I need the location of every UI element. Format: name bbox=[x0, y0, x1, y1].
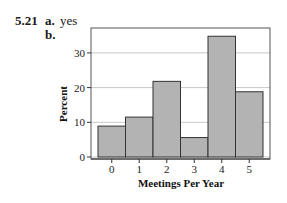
x-tick-label: 4 bbox=[219, 163, 225, 175]
bar-5 bbox=[236, 92, 264, 157]
x-tick-label: 3 bbox=[192, 163, 198, 175]
y-tick-label: 10 bbox=[74, 116, 86, 128]
x-axis-title: Meetings Per Year bbox=[138, 177, 224, 189]
y-tick-label: 0 bbox=[80, 151, 86, 163]
histogram-chart: 0102030 012345 Percent Meetings Per Year bbox=[0, 0, 287, 203]
x-tick-label: 0 bbox=[109, 163, 115, 175]
y-tick-label: 20 bbox=[74, 82, 86, 94]
x-tick-label: 5 bbox=[247, 163, 253, 175]
bar-1 bbox=[126, 117, 154, 157]
bar-4 bbox=[208, 36, 236, 157]
x-tick-label: 2 bbox=[164, 163, 170, 175]
bar-2 bbox=[153, 81, 181, 157]
bars bbox=[98, 36, 263, 157]
y-axis: 0102030 bbox=[74, 47, 91, 163]
x-axis: 012345 bbox=[91, 159, 270, 175]
bar-0 bbox=[98, 126, 126, 157]
y-tick-label: 30 bbox=[74, 47, 86, 59]
bar-3 bbox=[181, 138, 209, 157]
y-axis-title: Percent bbox=[57, 86, 69, 122]
x-tick-label: 1 bbox=[137, 163, 143, 175]
